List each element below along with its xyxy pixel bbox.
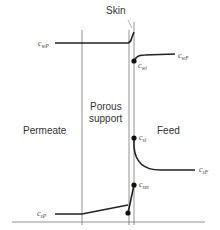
label-feed: Feed [157,125,180,136]
water-permeate-profile [55,32,134,43]
c-sm-lower-point [125,210,130,215]
label-c-sm: csm [139,180,149,190]
label-porous: Porous [90,101,122,112]
label-c-wP: cwP [38,39,49,49]
water-feed-profile [134,54,175,61]
label-skin: Skin [106,5,125,16]
c-sm-point [131,182,136,187]
label-c-sP: csP [37,209,47,219]
membrane-concentration-diagram: Skin Porous support Permeate Feed cwP cw… [0,0,220,230]
c-si-point [131,135,136,140]
label-c-wF: cwF [178,51,189,61]
skin-pointer [128,20,132,28]
label-c-si: csi [139,133,147,143]
label-support: support [89,113,123,124]
label-permeate: Permeate [23,125,67,136]
c-wi-point [131,58,136,63]
label-c-wi: cwi [138,61,147,71]
label-c-sF: csF [199,165,209,175]
solute-permeate-profile [55,205,128,214]
